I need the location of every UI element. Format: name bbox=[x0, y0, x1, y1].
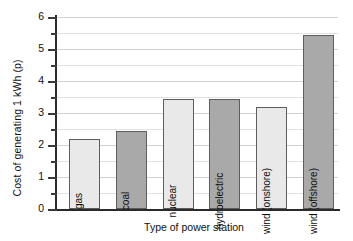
y-tick-label: 0 bbox=[30, 203, 44, 214]
y-tick-major bbox=[48, 145, 57, 147]
gridline-minor bbox=[57, 33, 338, 34]
y-axis-title: Cost of generating 1 kWh (p) bbox=[11, 33, 23, 223]
bar-hydroelectric[interactable]: hydroelectric bbox=[209, 99, 240, 209]
y-tick-minor bbox=[51, 65, 57, 67]
y-tick-major bbox=[48, 177, 57, 179]
y-tick-major bbox=[48, 17, 57, 19]
x-axis-line bbox=[48, 209, 340, 211]
bar-wind-onshore[interactable]: wind (onshore) bbox=[256, 107, 287, 209]
y-tick-minor bbox=[51, 129, 57, 131]
plot-area: gascoalnuclearhydroelectricwind (onshore… bbox=[57, 17, 338, 209]
y-tick-minor bbox=[51, 161, 57, 163]
y-tick-major bbox=[48, 113, 57, 115]
y-tick-label: 5 bbox=[30, 43, 44, 54]
y-tick-label: 6 bbox=[30, 11, 44, 22]
bar-label: nuclear bbox=[168, 185, 178, 218]
y-tick-major bbox=[48, 209, 57, 211]
y-tick-minor bbox=[51, 193, 57, 195]
bar-coal[interactable]: coal bbox=[116, 131, 147, 209]
y-tick-label: 3 bbox=[30, 107, 44, 118]
gridline-major bbox=[57, 81, 338, 82]
y-tick-label: 4 bbox=[30, 75, 44, 86]
y-tick-minor bbox=[51, 97, 57, 99]
bar-gas[interactable]: gas bbox=[69, 139, 100, 209]
gridline-major bbox=[57, 49, 338, 50]
gridline-major bbox=[57, 17, 338, 18]
gridline-major bbox=[57, 113, 338, 114]
bar-nuclear[interactable]: nuclear bbox=[163, 99, 194, 209]
y-tick-minor bbox=[51, 33, 57, 35]
y-tick-major bbox=[48, 81, 57, 83]
bar-label: coal bbox=[121, 192, 131, 210]
y-tick-major bbox=[48, 49, 57, 51]
gridline-minor bbox=[57, 129, 338, 130]
bar-wind-offshore[interactable]: wind (offshore) bbox=[303, 35, 334, 209]
x-axis-title: Type of power station bbox=[48, 221, 340, 233]
y-tick-label: 2 bbox=[30, 139, 44, 150]
gridline-minor bbox=[57, 97, 338, 98]
gridline-minor bbox=[57, 65, 338, 66]
bar-chart: Cost of generating 1 kWh (p) gascoalnucl… bbox=[0, 0, 353, 241]
bar-label: gas bbox=[74, 193, 84, 209]
y-tick-label: 1 bbox=[30, 171, 44, 182]
